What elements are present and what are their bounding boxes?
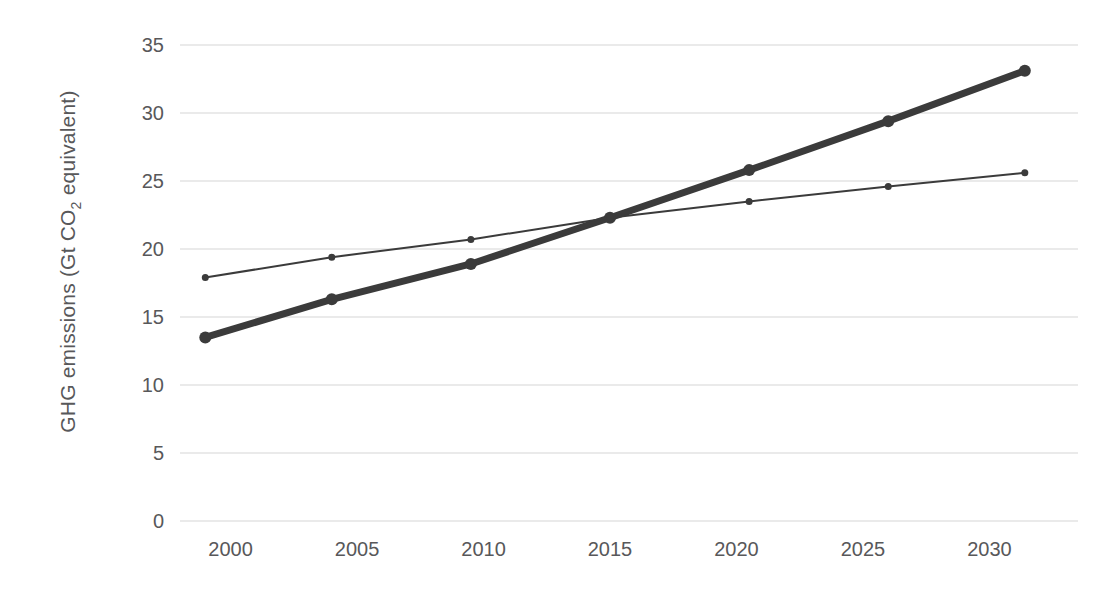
data-point-marker — [199, 331, 211, 343]
y-tick-label: 15 — [142, 306, 164, 328]
data-point-marker — [882, 115, 894, 127]
data-point-marker — [467, 236, 474, 243]
data-point-marker — [1019, 65, 1031, 77]
data-point-marker — [1021, 169, 1028, 176]
data-point-marker — [746, 198, 753, 205]
data-point-marker — [885, 183, 892, 190]
x-tick-label: 2015 — [588, 538, 633, 560]
data-point-marker — [465, 258, 477, 270]
series-line-thin-series — [205, 173, 1025, 278]
y-tick-label: 30 — [142, 102, 164, 124]
y-tick-label: 5 — [153, 442, 164, 464]
gridlines-group — [180, 45, 1078, 521]
data-point-marker — [328, 254, 335, 261]
x-tick-label: 2030 — [967, 538, 1012, 560]
y-tick-label: 35 — [142, 34, 164, 56]
x-tick-label: 2020 — [714, 538, 759, 560]
series-group — [199, 65, 1031, 344]
data-point-marker — [202, 274, 209, 281]
x-tick-label: 2005 — [335, 538, 380, 560]
data-point-marker — [326, 293, 338, 305]
chart-container: 05101520253035 2000200520102015202020252… — [0, 0, 1095, 609]
x-tick-label: 2010 — [461, 538, 506, 560]
y-axis-tick-labels: 05101520253035 — [142, 34, 164, 532]
y-tick-label: 25 — [142, 170, 164, 192]
x-tick-label: 2025 — [841, 538, 886, 560]
line-chart: 05101520253035 2000200520102015202020252… — [0, 0, 1095, 609]
y-tick-label: 10 — [142, 374, 164, 396]
y-tick-label: 20 — [142, 238, 164, 260]
data-point-marker — [607, 214, 614, 221]
x-tick-label: 2000 — [208, 538, 253, 560]
x-axis-tick-labels: 2000200520102015202020252030 — [208, 538, 1011, 560]
data-point-marker — [743, 164, 755, 176]
y-tick-label: 0 — [153, 510, 164, 532]
